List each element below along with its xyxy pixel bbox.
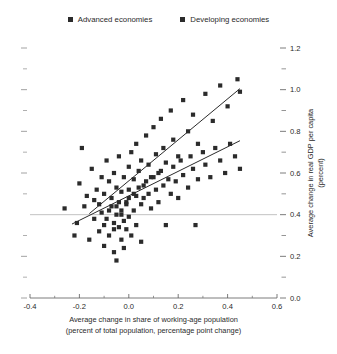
chart-container: Advanced economies Developing economies … [0,0,337,354]
trendline-advanced-economies [89,89,240,214]
data-point [169,108,173,112]
data-point [112,171,116,175]
data-point [82,204,86,208]
y-tick-label: 0.2 [290,252,301,261]
data-point [117,225,121,229]
data-point [97,229,101,233]
data-point [87,238,91,242]
scatter-plot: -0.4-0.20.00.20.40.60.00.20.40.60.81.01.… [0,0,337,354]
data-point [107,208,111,212]
data-point [164,160,168,164]
data-point [191,113,195,117]
x-tick-label: 0.6 [272,302,283,311]
data-point [90,167,94,171]
data-point [142,196,146,200]
data-point [201,150,205,154]
data-point [102,244,106,248]
data-point [159,169,163,173]
data-point [196,177,200,181]
data-point [176,196,180,200]
data-point [203,163,207,167]
data-point [161,183,165,187]
data-point [95,188,99,192]
data-point [156,200,160,204]
data-point [100,175,104,179]
data-point [114,185,118,189]
data-point [122,175,126,179]
data-point [134,223,138,227]
data-point [226,104,230,108]
data-point [149,206,153,210]
x-tick-label: -0.2 [73,302,86,311]
data-point [104,158,108,162]
data-point [142,183,146,187]
data-point [127,165,131,169]
y-tick-label: 0.4 [290,210,301,219]
data-point [203,92,207,96]
data-point [102,192,106,196]
y-tick-label: 0.6 [290,169,301,178]
data-point [223,171,227,175]
data-point [208,175,212,179]
data-point [181,98,185,102]
data-point [124,227,128,231]
data-point [122,219,126,223]
data-point [129,233,133,237]
data-point [171,138,175,142]
data-point [174,179,178,183]
data-point [196,142,200,146]
data-point [151,125,155,129]
data-point [238,167,242,171]
data-point [117,154,121,158]
x-tick-label: 0.0 [124,302,135,311]
data-point [159,117,163,121]
data-point [104,217,108,221]
data-point [114,258,118,262]
data-point [119,190,123,194]
y-axis-title-line2: (percent) [316,158,325,188]
data-point [114,204,118,208]
data-point [193,223,197,227]
data-point [80,146,84,150]
data-point [213,146,217,150]
data-point [119,208,123,212]
data-point [100,210,104,214]
data-point [119,213,123,217]
data-point [137,185,141,189]
x-tick-label: -0.4 [23,302,36,311]
y-tick-label: 1.0 [290,85,301,94]
data-point [186,185,190,189]
x-tick-label: 0.2 [173,302,184,311]
data-point [154,188,158,192]
x-axis-title-line2: (percent of total population, percentage… [66,326,241,335]
y-tick-label: 0.0 [290,294,301,303]
data-point [129,150,133,154]
data-point [211,119,215,123]
data-point [188,154,192,158]
data-point [112,227,116,231]
x-tick-label: 0.4 [222,302,233,311]
data-point [85,194,89,198]
data-point [235,77,239,81]
data-point [92,198,96,202]
data-point [139,158,143,162]
data-point [127,215,131,219]
data-point [77,181,81,185]
y-axis-title: Average change in real GDP per capita [306,108,315,237]
data-point [151,175,155,179]
data-point [139,202,143,206]
data-point [132,208,136,212]
data-point [176,154,180,158]
data-point [72,233,76,237]
data-point [107,233,111,237]
data-point [218,158,222,162]
data-point [146,192,150,196]
data-point [127,188,131,192]
data-point [164,223,168,227]
data-point [62,206,66,210]
data-point [107,179,111,183]
data-point [179,158,183,162]
data-point [124,202,128,206]
data-point [139,240,143,244]
data-point [112,221,116,225]
